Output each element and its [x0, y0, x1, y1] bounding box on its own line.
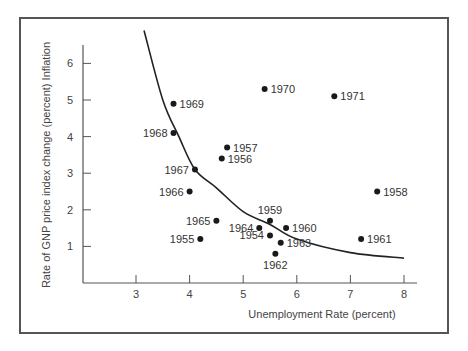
- data-point-1971: 1971: [331, 90, 364, 102]
- point-label: 1962: [263, 259, 287, 271]
- point-label: 1969: [180, 98, 204, 110]
- data-point-1955: 1955: [170, 233, 203, 245]
- x-tick-label: 5: [240, 288, 246, 300]
- point-marker: [187, 189, 193, 195]
- x-tick-label: 3: [133, 288, 139, 300]
- point-label: 1961: [367, 233, 391, 245]
- axes: 123456345678: [67, 45, 417, 300]
- point-label: 1957: [233, 142, 257, 154]
- y-tick-label: 3: [67, 167, 73, 179]
- point-label: 1955: [170, 233, 194, 245]
- x-tick-label: 7: [347, 288, 353, 300]
- point-marker: [256, 225, 262, 231]
- data-points: 1954195519561957195819591960196119621963…: [143, 83, 408, 271]
- data-point-1968: 1968: [143, 127, 176, 139]
- data-point-1970: 1970: [262, 83, 295, 95]
- data-point-1958: 1958: [374, 186, 407, 198]
- point-marker: [197, 236, 203, 242]
- data-point-1960: 1960: [283, 222, 316, 234]
- data-point-1962: 1962: [263, 251, 287, 271]
- point-label: 1968: [143, 127, 167, 139]
- point-label: 1970: [271, 83, 295, 95]
- point-label: 1956: [228, 153, 252, 165]
- y-tick-label: 5: [67, 94, 73, 106]
- point-marker: [267, 218, 273, 224]
- point-marker: [272, 251, 278, 257]
- y-axis-title: Rate of GNP price index change (percent)…: [40, 42, 52, 288]
- fitted-curve: [144, 30, 404, 258]
- point-label: 1960: [292, 222, 316, 234]
- x-tick-label: 8: [401, 288, 407, 300]
- point-marker: [283, 225, 289, 231]
- x-axis-title: Unemployment Rate (percent): [248, 308, 395, 320]
- phillips-curve-line: [144, 30, 404, 258]
- point-label: 1958: [383, 186, 407, 198]
- point-label: 1965: [186, 215, 210, 227]
- data-point-1956: 1956: [219, 153, 252, 165]
- y-tick-label: 4: [67, 131, 73, 143]
- point-label: 1964: [229, 222, 253, 234]
- point-marker: [219, 156, 225, 162]
- point-label: 1966: [159, 186, 183, 198]
- point-marker: [192, 167, 198, 173]
- point-marker: [267, 232, 273, 238]
- point-label: 1959: [258, 204, 282, 216]
- point-marker: [213, 218, 219, 224]
- data-point-1965: 1965: [186, 215, 219, 227]
- point-marker: [171, 101, 177, 107]
- x-tick-label: 4: [187, 288, 193, 300]
- y-tick-label: 1: [67, 240, 73, 252]
- point-marker: [171, 130, 177, 136]
- point-marker: [262, 86, 268, 92]
- x-tick-label: 6: [294, 288, 300, 300]
- data-point-1966: 1966: [159, 186, 192, 198]
- point-label: 1967: [164, 164, 188, 176]
- y-tick-label: 6: [67, 57, 73, 69]
- point-label: 1971: [340, 90, 364, 102]
- data-point-1969: 1969: [171, 98, 204, 110]
- phillips-curve-chart: 123456345678 195419551956195719581959196…: [0, 0, 468, 351]
- point-marker: [331, 93, 337, 99]
- data-point-1963: 1963: [278, 237, 311, 249]
- point-marker: [374, 189, 380, 195]
- point-marker: [278, 240, 284, 246]
- data-point-1961: 1961: [358, 233, 391, 245]
- point-label: 1963: [287, 237, 311, 249]
- y-tick-label: 2: [67, 204, 73, 216]
- point-marker: [358, 236, 364, 242]
- point-marker: [224, 145, 230, 151]
